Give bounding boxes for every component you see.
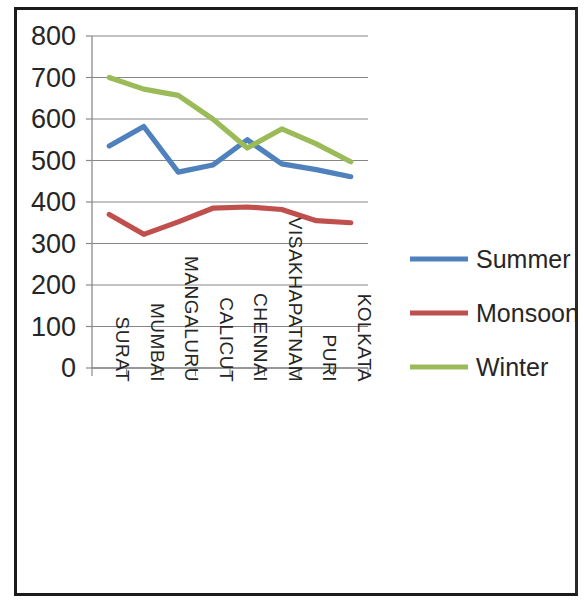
y-axis-tick-label: 0 <box>61 353 76 383</box>
x-axis-tick-label: VISAKHAPATNAM <box>285 217 306 382</box>
x-axis-tick-label: PURI <box>319 335 340 382</box>
y-axis-tick-label: 800 <box>31 21 76 51</box>
y-axis-tick-label: 100 <box>31 312 76 342</box>
y-axis-tick-label: 500 <box>31 146 76 176</box>
scanned-chart-page: 0100200300400500600700800 SURATMUMBAIMAN… <box>0 0 584 601</box>
series-line-winter <box>109 78 351 162</box>
y-axis-tick-label: 300 <box>31 229 76 259</box>
legend-label-monsoon: Monsoon <box>476 299 579 327</box>
chart-legend: SummerMonsoonWinter <box>410 245 579 381</box>
data-series-group <box>109 78 351 235</box>
legend-label-summer: Summer <box>476 245 570 273</box>
y-axis-tick-label: 400 <box>31 187 76 217</box>
line-chart: 0100200300400500600700800 SURATMUMBAIMAN… <box>0 0 584 601</box>
y-axis-tick-labels: 0100200300400500600700800 <box>31 21 76 383</box>
legend-label-winter: Winter <box>476 353 548 381</box>
x-axis-tick-label: KOLKATA <box>354 294 375 382</box>
x-axis-tick-label: SURAT <box>112 317 133 382</box>
series-line-monsoon <box>109 207 351 234</box>
x-axis-tick-label: MANGALURU <box>181 256 202 382</box>
x-axis-tick-labels: SURATMUMBAIMANGALURUCALICUTCHENNAIVISAKH… <box>112 217 375 382</box>
y-axis-tick-label: 700 <box>31 63 76 93</box>
x-axis-tick-label: MUMBAI <box>147 303 168 382</box>
x-axis-tick-label: CHENNAI <box>250 293 271 382</box>
x-axis-tick-label: CALICUT <box>216 297 237 382</box>
y-axis-tick-label: 600 <box>31 104 76 134</box>
y-axis-tick-label: 200 <box>31 270 76 300</box>
